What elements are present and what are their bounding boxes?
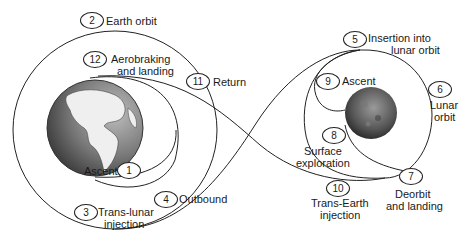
- step-7-label-line1: Deorbit: [395, 188, 430, 200]
- step-12-label-line1: Aerobraking: [111, 53, 170, 65]
- step-2-badge: 2: [80, 12, 104, 29]
- step-10-badge: 10: [326, 180, 350, 197]
- step-3-label-line2: injection: [104, 218, 144, 230]
- step-6-badge: 6: [428, 81, 452, 98]
- step-4-label: Outbound: [179, 193, 227, 205]
- step-1-label: Ascent: [84, 165, 118, 177]
- step-9-label: Ascent: [342, 75, 376, 87]
- step-9-badge: 9: [316, 73, 340, 90]
- step-8-badge: 8: [322, 127, 346, 144]
- step-5-label-line2: lunar orbit: [391, 44, 440, 56]
- step-12-label-line2: and landing: [117, 65, 174, 77]
- step-6-label-line1: Lunar: [430, 99, 458, 111]
- step-5-badge: 5: [343, 31, 367, 48]
- step-3-label-line1: Trans-lunar: [98, 206, 154, 218]
- step-10-label-line1: Trans-Earth: [311, 197, 369, 209]
- step-4-badge: 4: [154, 191, 178, 208]
- step-11-badge: 11: [186, 73, 210, 90]
- step-6-label-line2: orbit: [434, 111, 455, 123]
- step-7-badge: 7: [399, 168, 423, 185]
- moon: [345, 87, 397, 139]
- step-3-badge: 3: [74, 204, 98, 221]
- step-8-label-line2: exploration: [296, 157, 350, 169]
- step-12-badge: 12: [83, 51, 107, 68]
- step-5-label-line1: Insertion into: [368, 32, 431, 44]
- step-10-label-line2: injection: [320, 209, 360, 221]
- step-7-label-line2: and landing: [386, 200, 443, 212]
- step-1-badge: 1: [117, 162, 141, 179]
- step-2-label: Earth orbit: [106, 15, 157, 27]
- step-11-label: Return: [213, 76, 246, 88]
- step-8-label-line1: Surface: [304, 145, 342, 157]
